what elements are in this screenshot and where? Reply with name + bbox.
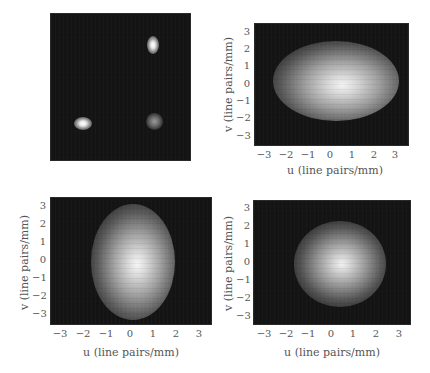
- y-tick: 2: [32, 219, 46, 229]
- y-tick: 0: [32, 255, 46, 265]
- x-tick: 1: [145, 329, 161, 339]
- x-tick: 3: [391, 329, 407, 339]
- x-tick: −1: [98, 329, 114, 339]
- x-tick: 2: [368, 329, 384, 339]
- y-tick: 0: [236, 79, 250, 89]
- y-tick: −1: [236, 275, 250, 285]
- spectrum-4-plot: [253, 200, 411, 325]
- x-axis-label: u (line pairs/mm): [76, 346, 186, 359]
- y-tick: −3: [32, 309, 46, 319]
- x-tick: −1: [300, 329, 316, 339]
- x-tick: 2: [168, 329, 184, 339]
- y-tick: 3: [236, 203, 250, 213]
- spot-lower-left: [74, 117, 92, 130]
- spot-upper-right: [147, 36, 159, 54]
- y-tick: −1: [236, 96, 250, 106]
- y-tick: 2: [236, 44, 250, 54]
- x-axis-label: u (line pairs/mm): [280, 164, 390, 177]
- x-tick: 3: [191, 329, 207, 339]
- x-tick: 0: [323, 329, 339, 339]
- y-tick: 1: [236, 61, 250, 71]
- y-axis-label: v (line pairs/mm): [18, 208, 31, 318]
- y-tick: −1: [32, 273, 46, 283]
- y-tick: 1: [32, 237, 46, 247]
- spot-lower-right: [146, 113, 163, 130]
- y-tick: 1: [236, 239, 250, 249]
- y-tick: −2: [32, 291, 46, 301]
- x-tick: −2: [278, 150, 294, 160]
- y-axis-label: v (line pairs/mm): [222, 209, 235, 319]
- y-tick: −2: [236, 293, 250, 303]
- y-tick: −2: [236, 113, 250, 123]
- x-tick: 3: [387, 150, 403, 160]
- y-tick: 3: [32, 201, 46, 211]
- y-tick: 2: [236, 221, 250, 231]
- x-tick: 0: [322, 150, 338, 160]
- y-tick: −3: [236, 131, 250, 141]
- spatial-image: [50, 13, 191, 161]
- y-tick: 0: [236, 257, 250, 267]
- y-tick: −3: [236, 311, 250, 321]
- x-tick: 1: [345, 329, 361, 339]
- x-tick: 2: [366, 150, 382, 160]
- x-tick: 0: [122, 329, 138, 339]
- x-tick: −2: [278, 329, 294, 339]
- x-tick: −2: [75, 329, 91, 339]
- x-tick: 1: [344, 150, 360, 160]
- spectrum-2-blob: [273, 41, 399, 121]
- spectrum-3-blob: [91, 204, 175, 320]
- y-axis-label: v (line pairs/mm): [222, 30, 235, 140]
- x-tick: −1: [300, 150, 316, 160]
- x-tick: −3: [256, 150, 272, 160]
- x-tick: −3: [52, 329, 68, 339]
- x-axis-label: u (line pairs/mm): [277, 346, 387, 359]
- y-tick: 3: [236, 27, 250, 37]
- spectrum-4-blob: [294, 221, 386, 307]
- spectrum-2-plot: [254, 23, 409, 146]
- x-tick: −3: [256, 329, 272, 339]
- spectrum-3-plot: [50, 197, 212, 325]
